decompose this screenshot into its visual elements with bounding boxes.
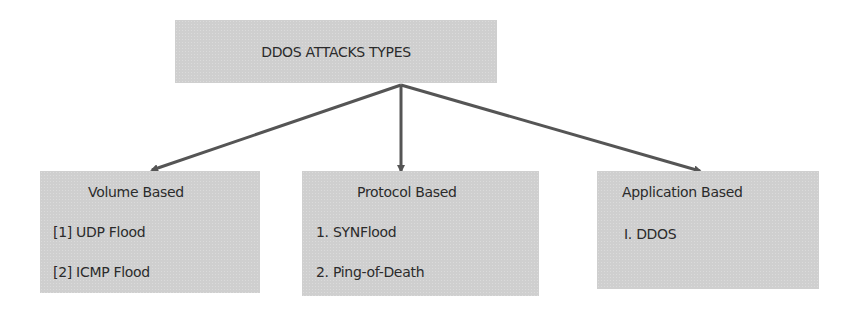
arrow-to-application-based	[401, 85, 700, 171]
root-node-ddos-attack-types: DDOS ATTACKS TYPES	[175, 20, 497, 83]
node-item: [2] ICMP Flood	[53, 264, 150, 280]
node-title: Application Based	[622, 184, 743, 200]
node-item: 1. SYNFlood	[316, 224, 396, 240]
node-item: 2. Ping-of-Death	[316, 264, 424, 280]
node-protocol-based: Protocol Based 1. SYNFlood 2. Ping-of-De…	[302, 171, 539, 296]
node-title: Protocol Based	[357, 184, 457, 200]
node-volume-based: Volume Based [1] UDP Flood [2] ICMP Floo…	[40, 171, 260, 293]
node-title: Volume Based	[88, 184, 184, 200]
node-application-based: Application Based I. DDOS	[597, 171, 819, 289]
node-item: I. DDOS	[624, 226, 676, 242]
root-node-label: DDOS ATTACKS TYPES	[261, 44, 411, 60]
arrow-to-volume-based	[152, 85, 401, 170]
node-item: [1] UDP Flood	[53, 224, 145, 240]
